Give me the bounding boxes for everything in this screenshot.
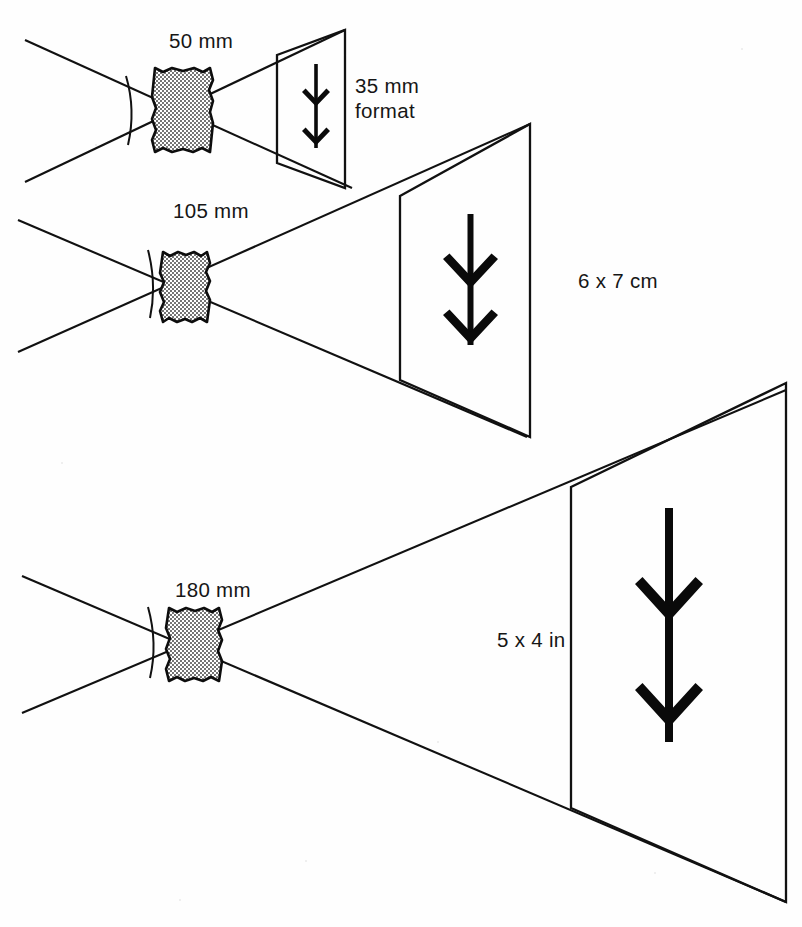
lens-body xyxy=(152,68,213,152)
arrow-shaft xyxy=(665,508,673,742)
lens-icon-50mm xyxy=(152,68,213,152)
lens-format-diagram: 50 mm 35 mm format xyxy=(0,0,802,927)
lens-icon-180mm xyxy=(166,608,222,681)
focal-length-label-50mm: 50 mm xyxy=(169,29,233,52)
focal-length-label-180mm: 180 mm xyxy=(175,578,251,601)
canvas-background xyxy=(0,0,802,927)
format-label-35mm-line1: 35 mm xyxy=(355,74,419,97)
focal-length-label-105mm: 105 mm xyxy=(173,199,249,222)
format-label-6x7: 6 x 7 cm xyxy=(578,269,658,292)
format-label-35mm-line2: format xyxy=(355,99,415,122)
diagram-canvas: 50 mm 35 mm format xyxy=(0,0,802,927)
lens-icon-105mm xyxy=(160,252,210,322)
format-label-5x4: 5 x 4 in xyxy=(497,628,566,651)
lens-body xyxy=(166,608,222,681)
lens-body xyxy=(160,252,210,322)
